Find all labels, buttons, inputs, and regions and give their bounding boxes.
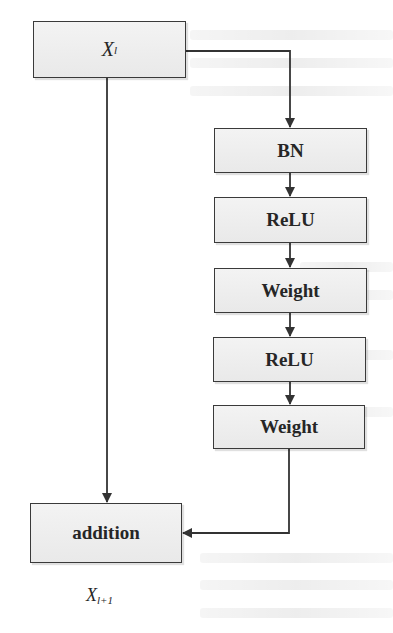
bn-node: BN [214,128,367,173]
relu-node-2: ReLU [213,337,366,382]
weight-node-1: Weight [214,268,367,313]
output-label-main: X [86,585,97,605]
weight-node-2: Weight [213,405,365,449]
relu-label-2: ReLU [265,349,314,371]
relu-label-1: ReLU [266,209,315,231]
bn-label: BN [277,140,303,162]
input-label: X [102,38,114,61]
weight-label-2: Weight [260,416,318,438]
input-node: Xl [33,21,186,78]
addition-node: addition [30,503,182,563]
addition-label: addition [72,522,140,544]
weight-label-1: Weight [261,280,319,302]
relu-node-1: ReLU [214,197,367,243]
input-subscript: l [114,44,117,56]
output-subscript: l+1 [97,594,113,606]
output-label: Xl+1 [86,585,113,606]
